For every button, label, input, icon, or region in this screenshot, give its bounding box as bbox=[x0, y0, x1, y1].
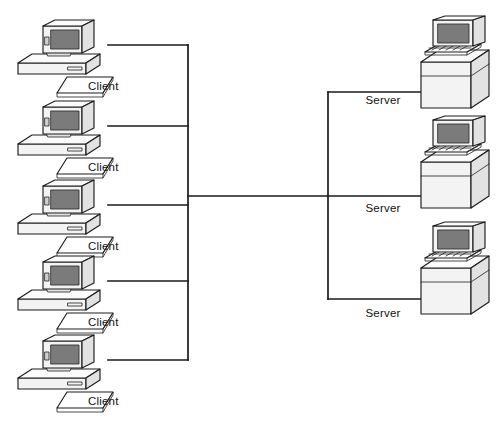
client-label-3: Client bbox=[88, 240, 119, 252]
client-node-5[interactable]: Client bbox=[18, 335, 119, 412]
server-tower-icon bbox=[421, 16, 489, 108]
client-node-3[interactable]: Client bbox=[18, 180, 119, 257]
client-label-4: Client bbox=[88, 316, 119, 328]
client-label-1: Client bbox=[88, 80, 119, 92]
server-group: Server Server Server bbox=[365, 16, 489, 319]
server-node-1[interactable]: Server bbox=[365, 16, 489, 108]
server-node-2[interactable]: Server bbox=[365, 116, 489, 214]
client-node-4[interactable]: Client bbox=[18, 256, 119, 333]
server-label-3: Server bbox=[365, 307, 400, 319]
client-node-1[interactable]: Client bbox=[18, 20, 119, 97]
network-diagram: Client Client Client Client Client bbox=[0, 0, 503, 424]
server-tower-icon bbox=[421, 116, 489, 208]
network-diagram-svg: Client Client Client Client Client bbox=[0, 0, 503, 424]
client-label-5: Client bbox=[88, 395, 119, 407]
server-label-2: Server bbox=[365, 202, 400, 214]
server-node-3[interactable]: Server bbox=[365, 222, 489, 319]
client-label-2: Client bbox=[88, 161, 119, 173]
client-node-2[interactable]: Client bbox=[18, 101, 119, 178]
server-label-1: Server bbox=[365, 94, 400, 106]
client-group: Client Client Client Client Client bbox=[18, 20, 119, 412]
server-tower-icon bbox=[421, 222, 489, 314]
